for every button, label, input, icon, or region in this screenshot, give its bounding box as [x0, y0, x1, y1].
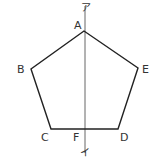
vertex-label-a: A — [74, 19, 82, 32]
axis-label-a-kana: ア — [81, 2, 91, 13]
vertex-label-d: D — [120, 131, 128, 144]
point-label-f: F — [73, 131, 79, 144]
pentagon-diagram: A B C D E F ア イ — [0, 0, 160, 157]
vertex-label-b: B — [17, 63, 25, 76]
vertex-label-e: E — [142, 63, 149, 76]
vertex-label-c: C — [41, 131, 49, 144]
axis-label-i-kana: イ — [80, 147, 90, 157]
